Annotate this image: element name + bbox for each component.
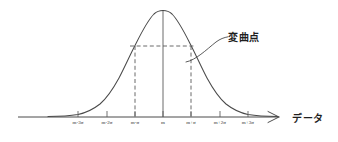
tick-label-m-plus-sigma: m+σ — [186, 120, 196, 125]
figure-canvas — [0, 0, 338, 142]
tick-label-m-plus-3sigma: m+3σ — [242, 120, 254, 125]
inflection-point-label: 変曲点 — [228, 29, 260, 44]
tick-label-m-plus-2sigma: m+2σ — [214, 120, 226, 125]
tick-label-m-minus-3sigma: m-3σ — [72, 120, 83, 125]
tick-label-m-minus-2sigma: m-2σ — [101, 120, 112, 125]
tick-label-m: m — [161, 120, 165, 125]
axis-name-label: データ — [292, 110, 324, 125]
normal-distribution-figure: m-3σ m-2σ m-σ m m+σ m+2σ m+3σ 変曲点 データ — [0, 0, 338, 142]
inflection-leader-line — [186, 37, 228, 62]
tick-label-m-minus-sigma: m-σ — [131, 120, 140, 125]
